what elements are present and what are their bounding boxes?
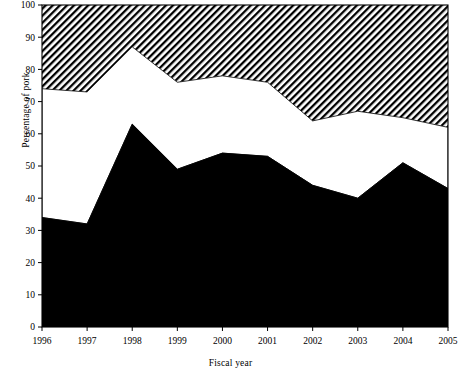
x-tick-label: 1998 — [123, 336, 142, 346]
y-tick-label: 10 — [26, 290, 36, 300]
x-tick-label: 1997 — [78, 336, 97, 346]
x-tick-label: 2000 — [213, 336, 232, 346]
x-tick-label: 2004 — [393, 336, 412, 346]
y-tick-label: 0 — [30, 322, 35, 332]
x-tick-label: 2005 — [439, 336, 458, 346]
x-axis: 1996199719981999200020012002200320042005 — [33, 327, 458, 346]
y-tick-label: 40 — [26, 194, 36, 204]
y-tick-label: 20 — [26, 258, 36, 268]
y-tick-label: 100 — [21, 0, 36, 10]
chart-container: 0102030405060708090100 19961997199819992… — [0, 0, 461, 381]
y-tick-label: 30 — [26, 226, 36, 236]
x-tick-label: 2003 — [348, 336, 367, 346]
x-tick-label: 2002 — [303, 336, 322, 346]
x-tick-label: 1996 — [33, 336, 52, 346]
x-tick-label: 1999 — [168, 336, 187, 346]
y-axis-title: Percentage of pork — [21, 40, 31, 180]
chart-plot: 0102030405060708090100 19961997199819992… — [0, 0, 461, 381]
x-axis-title: Fiscal year — [0, 358, 461, 368]
x-tick-label: 2001 — [258, 336, 277, 346]
